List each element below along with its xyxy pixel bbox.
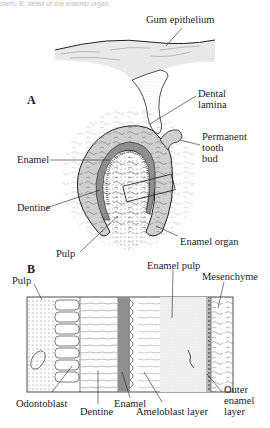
panel-a-illustration xyxy=(46,28,215,252)
panel-b-illustration xyxy=(27,270,233,404)
label-outer-enamel-layer-line1: Outer xyxy=(224,384,248,395)
label-permanent-tooth-bud-line2: tooth xyxy=(202,142,224,153)
label-ameloblast-layer: Ameloblast layer xyxy=(136,406,208,417)
label-dentine-b: Dentine xyxy=(80,406,113,417)
label-permanent-tooth-bud-line3: bud xyxy=(202,153,218,164)
tooth-development-diagram: stem, B, detail of the enamel organ xyxy=(0,0,270,428)
label-outer-enamel-layer-line3: layer xyxy=(224,406,245,417)
label-outer-enamel-layer-line2: enamel xyxy=(224,395,254,406)
panel-a-letter: A xyxy=(27,93,36,108)
label-pulp-b: Pulp xyxy=(12,275,31,286)
label-gum-epithelium: Gum epithelium xyxy=(146,14,215,25)
label-permanent-tooth-bud-line1: Permanent xyxy=(202,131,247,142)
label-enamel-a: Enamel xyxy=(17,154,49,165)
label-enamel-organ: Enamel organ xyxy=(180,236,238,247)
label-odontoblast: Odontoblast xyxy=(16,398,67,409)
label-dental-lamina-line1: Dental xyxy=(198,88,226,99)
diagram-illustration xyxy=(0,0,270,428)
label-dentine-a: Dentine xyxy=(17,202,50,213)
label-mesenchyme: Mesenchyme xyxy=(202,271,258,282)
label-enamel-pulp: Enamel pulp xyxy=(147,260,200,271)
label-pulp-a: Pulp xyxy=(56,248,75,259)
label-dental-lamina-line2: lamina xyxy=(198,99,227,110)
